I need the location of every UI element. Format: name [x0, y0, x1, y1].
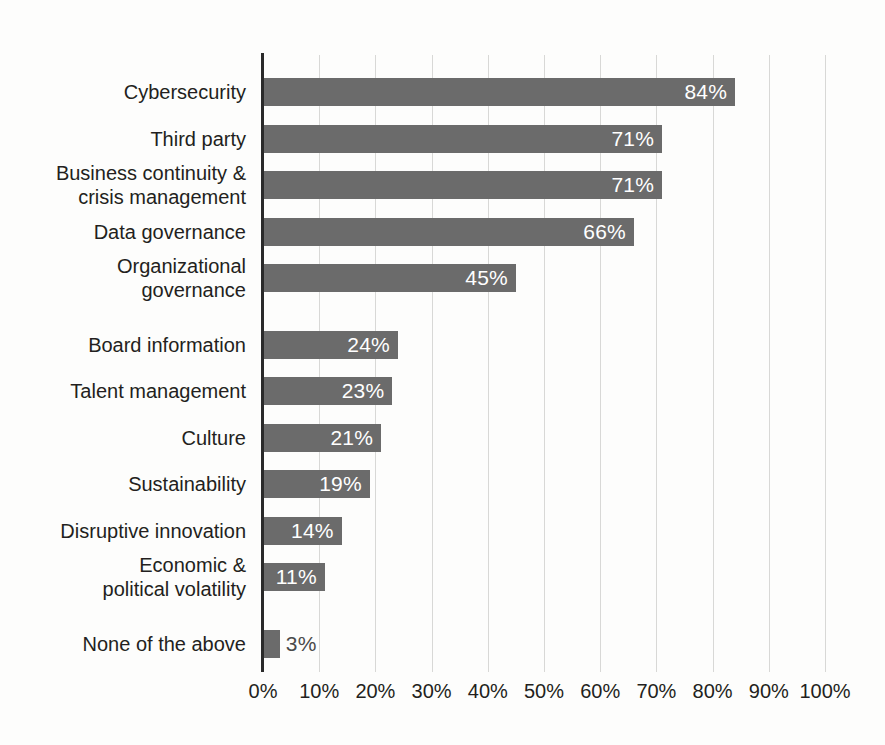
x-axis-tick-labels: 0%10%20%30%40%50%60%70%80%90%100% — [263, 678, 825, 708]
bar-chart: 84%71%71%66%45%24%23%21%19%14%11%3% Cybe… — [0, 0, 885, 745]
bar-value-label: 71% — [611, 125, 654, 153]
category-label: None of the above — [0, 632, 246, 656]
gridline-100% — [825, 55, 826, 672]
bar-row: 3% — [263, 630, 825, 658]
y-axis-line — [261, 53, 264, 672]
x-tick-label: 50% — [524, 678, 564, 704]
bar-value-label: 84% — [684, 78, 727, 106]
bar-value-label: 3% — [286, 630, 317, 658]
bar-row: 14% — [263, 517, 825, 545]
bar-row: 66% — [263, 218, 825, 246]
category-label: Third party — [0, 127, 246, 151]
bar-value-label: 21% — [330, 424, 373, 452]
bar-row: 71% — [263, 125, 825, 153]
bar-row: 23% — [263, 377, 825, 405]
category-labels: CybersecurityThird partyBusiness continu… — [0, 55, 246, 672]
category-label: Cybersecurity — [0, 80, 246, 104]
bar-value-label: 14% — [291, 517, 334, 545]
category-label: Board information — [0, 333, 246, 357]
x-tick-label: 40% — [468, 678, 508, 704]
bar-value-label: 19% — [319, 470, 362, 498]
x-tick-label: 70% — [636, 678, 676, 704]
bar-value-label: 23% — [342, 377, 385, 405]
bar-value-label: 11% — [276, 563, 317, 591]
x-tick-label: 0% — [249, 678, 278, 704]
category-label: Disruptive innovation — [0, 519, 246, 543]
bar — [263, 125, 662, 153]
category-label: Culture — [0, 426, 246, 450]
bar — [263, 630, 280, 658]
x-tick-label: 30% — [412, 678, 452, 704]
bar-row: 24% — [263, 331, 825, 359]
category-label: Organizational governance — [0, 254, 246, 302]
bar-row: 45% — [263, 264, 825, 292]
x-tick-label: 100% — [799, 678, 850, 704]
bar-value-label: 66% — [583, 218, 626, 246]
x-tick-label: 90% — [749, 678, 789, 704]
bar — [263, 218, 634, 246]
bar-row: 84% — [263, 78, 825, 106]
bar-row: 19% — [263, 470, 825, 498]
category-label: Data governance — [0, 220, 246, 244]
bar-row: 71% — [263, 171, 825, 199]
bar — [263, 171, 662, 199]
bar-value-label: 71% — [611, 171, 654, 199]
x-tick-label: 20% — [355, 678, 395, 704]
category-label: Economic & political volatility — [0, 553, 246, 601]
category-label: Talent management — [0, 379, 246, 403]
plot-area: 84%71%71%66%45%24%23%21%19%14%11%3% — [263, 55, 825, 672]
x-tick-label: 60% — [580, 678, 620, 704]
bar-value-label: 45% — [465, 264, 508, 292]
bar-row: 11% — [263, 563, 825, 591]
bar-value-label: 24% — [347, 331, 390, 359]
category-label: Business continuity & crisis management — [0, 161, 246, 209]
bars-layer: 84%71%71%66%45%24%23%21%19%14%11%3% — [263, 55, 825, 672]
category-label: Sustainability — [0, 472, 246, 496]
bar-row: 21% — [263, 424, 825, 452]
x-tick-label: 80% — [693, 678, 733, 704]
bar — [263, 78, 735, 106]
x-tick-label: 10% — [299, 678, 339, 704]
